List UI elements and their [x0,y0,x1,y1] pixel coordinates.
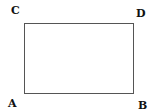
vertex-label-b: B [138,100,147,111]
vertex-label-c: C [11,5,20,16]
rectangle-shape [24,23,134,94]
vertex-label-a: A [8,98,17,109]
vertex-label-d: D [136,8,146,19]
